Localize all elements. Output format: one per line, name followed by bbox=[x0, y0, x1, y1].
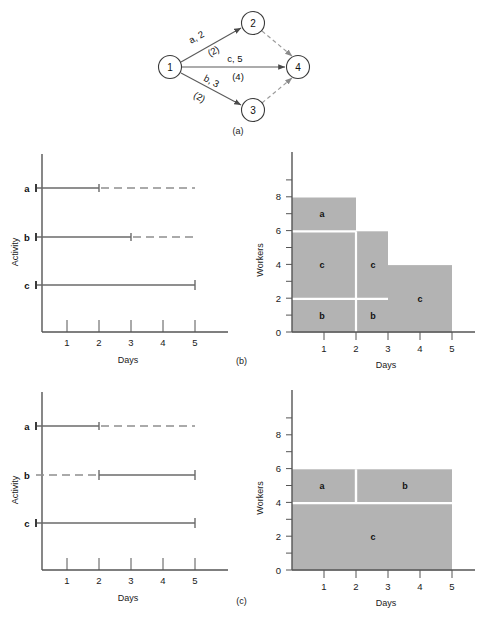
workers-c-blocklabel-c: c bbox=[370, 532, 375, 542]
caption-b-wrap: (b) bbox=[0, 356, 483, 374]
edge-label-b-workers: (2) bbox=[192, 89, 207, 104]
workers-b-y-axis-label: Workers bbox=[255, 243, 265, 277]
caption-a: (a) bbox=[233, 126, 244, 136]
workers-c-ytick-4: 4 bbox=[276, 497, 281, 508]
network-node-4: 4 bbox=[287, 56, 310, 79]
workers-c-ytick-2: 2 bbox=[276, 531, 281, 542]
workers-c-xtick-2: 2 bbox=[353, 581, 358, 592]
network-diagram-svg: 1 2 3 4 a, 2 (2) c, 5 (4) b, 3 (2) (a) bbox=[0, 0, 483, 140]
workers-b-ytick-2: 2 bbox=[276, 293, 281, 304]
edge-label-a: a, 2 bbox=[187, 28, 206, 45]
workers-b-ytick-0: 0 bbox=[276, 327, 281, 338]
workers-b-xtick-1: 1 bbox=[321, 343, 326, 354]
workers-b-xtick-5: 5 bbox=[449, 343, 454, 354]
workers-c-xtick-1: 1 bbox=[321, 581, 326, 592]
network-node-4-label: 4 bbox=[295, 62, 301, 73]
gantt-c-y-axis-label: Activity bbox=[10, 475, 20, 504]
gantt-b-bar-a: a bbox=[24, 183, 195, 194]
network-diagram-panel: 1 2 3 4 a, 2 (2) c, 5 (4) b, 3 (2) (a) bbox=[0, 0, 483, 140]
gantt-c-x-ticks: 1 2 3 4 5 bbox=[64, 558, 197, 586]
gantt-b-label-c: c bbox=[24, 280, 29, 291]
workers-b-blocklabel-c3: c bbox=[417, 294, 422, 304]
gantt-b-bar-b: b bbox=[24, 232, 195, 243]
gantt-b-bar-c: c bbox=[24, 280, 195, 291]
caption-c: (c) bbox=[0, 596, 483, 606]
gantt-b-xtick-5: 5 bbox=[192, 337, 197, 348]
network-node-1-label: 1 bbox=[167, 62, 173, 73]
gantt-c-xtick-4: 4 bbox=[160, 575, 165, 586]
network-node-3-label: 3 bbox=[250, 105, 256, 116]
workers-chart-b-svg: a c b c b c 0 2 4 6 8 bbox=[243, 140, 483, 370]
gantt-b-xtick-2: 2 bbox=[96, 337, 101, 348]
workers-b-y-ticks: 0 2 4 6 8 bbox=[276, 180, 292, 338]
edge-label-c-workers: (4) bbox=[232, 71, 244, 82]
gantt-chart-b-svg: 1 2 3 4 5 a b c Activity bbox=[0, 140, 240, 370]
workers-b-x-ticks: 1 2 3 4 5 bbox=[321, 332, 454, 354]
gantt-chart-b-panel: 1 2 3 4 5 a b c Activity bbox=[0, 140, 240, 370]
workers-b-xtick-4: 4 bbox=[417, 343, 422, 354]
edge-label-a-workers: (2) bbox=[206, 43, 222, 58]
workers-b-xtick-2: 2 bbox=[353, 343, 358, 354]
workers-c-y-axis-label: Workers bbox=[255, 481, 265, 515]
gantt-c-label-c: c bbox=[24, 518, 29, 529]
workers-chart-b-panel: a c b c b c 0 2 4 6 8 bbox=[243, 140, 483, 370]
gantt-c-xtick-1: 1 bbox=[64, 575, 69, 586]
workers-b-ytick-8: 8 bbox=[276, 191, 281, 202]
gantt-b-label-a: a bbox=[24, 183, 30, 194]
gantt-b-xtick-3: 3 bbox=[128, 337, 133, 348]
workers-c-ytick-6: 6 bbox=[276, 463, 281, 474]
edge-label-b: b, 3 bbox=[202, 72, 221, 89]
gantt-b-xtick-4: 4 bbox=[160, 337, 165, 348]
edge-label-c: c, 5 bbox=[227, 53, 242, 64]
gantt-b-x-ticks: 1 2 3 4 5 bbox=[64, 320, 197, 348]
network-node-2: 2 bbox=[242, 12, 265, 35]
gantt-b-xtick-1: 1 bbox=[64, 337, 69, 348]
gantt-chart-c-panel: 1 2 3 4 5 a b c Activity bbox=[0, 378, 240, 608]
workers-b-blocklabel-c1: c bbox=[319, 260, 324, 270]
workers-c-ytick-8: 8 bbox=[276, 429, 281, 440]
workers-c-xtick-3: 3 bbox=[385, 581, 390, 592]
caption-b: (b) bbox=[0, 356, 483, 366]
gantt-c-label-a: a bbox=[24, 421, 30, 432]
network-node-3: 3 bbox=[242, 99, 265, 122]
gantt-c-xtick-5: 5 bbox=[192, 575, 197, 586]
workers-b-blocklabel-b2: b bbox=[370, 311, 376, 321]
workers-c-xtick-4: 4 bbox=[417, 581, 422, 592]
gantt-b-label-b: b bbox=[24, 232, 30, 243]
network-node-1: 1 bbox=[159, 56, 182, 79]
workers-b-ytick-6: 6 bbox=[276, 225, 281, 236]
gantt-b-y-axis-label: Activity bbox=[10, 237, 20, 266]
workers-chart-c-svg: a b c 0 2 4 6 8 1 bbox=[243, 378, 483, 608]
workers-c-ytick-0: 0 bbox=[276, 565, 281, 576]
gantt-c-xtick-3: 3 bbox=[128, 575, 133, 586]
caption-c-wrap: (c) bbox=[0, 596, 483, 614]
workers-c-blocks bbox=[292, 469, 452, 570]
network-node-2-label: 2 bbox=[250, 18, 256, 29]
gantt-c-bar-c: c bbox=[24, 518, 195, 529]
gantt-c-bar-a: a bbox=[24, 421, 195, 432]
gantt-c-xtick-2: 2 bbox=[96, 575, 101, 586]
gantt-c-bar-b: b bbox=[24, 470, 195, 481]
workers-c-y-ticks: 0 2 4 6 8 bbox=[276, 418, 292, 576]
workers-c-xtick-5: 5 bbox=[449, 581, 454, 592]
workers-c-blocklabel-b: b bbox=[402, 481, 408, 491]
gantt-c-label-b: b bbox=[24, 470, 30, 481]
workers-b-blocklabel-c2: c bbox=[370, 260, 375, 270]
workers-b-xtick-3: 3 bbox=[385, 343, 390, 354]
gantt-chart-c-svg: 1 2 3 4 5 a b c Activity bbox=[0, 378, 240, 608]
edge-3-4-dummy bbox=[262, 78, 292, 103]
workers-b-blocklabel-b1: b bbox=[319, 311, 325, 321]
workers-chart-c-panel: a b c 0 2 4 6 8 1 bbox=[243, 378, 483, 608]
edge-2-4-dummy bbox=[262, 31, 292, 56]
workers-b-ytick-4: 4 bbox=[276, 259, 281, 270]
workers-c-x-ticks: 1 2 3 4 5 bbox=[321, 570, 454, 592]
